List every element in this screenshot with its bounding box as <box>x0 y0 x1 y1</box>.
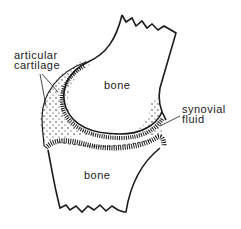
upper-bone-left-edge <box>64 15 162 134</box>
upper-bone <box>122 15 176 120</box>
label-cartilage: cartilage <box>14 60 60 70</box>
leader-synovial <box>160 116 180 126</box>
label-upper-bone: bone <box>104 80 130 90</box>
leader-cartilage-1 <box>40 74 46 106</box>
label-lower-bone: bone <box>84 170 110 180</box>
label-fluid: fluid <box>182 114 205 124</box>
joint-diagram: articular cartilage bone synovial fluid … <box>0 0 241 229</box>
